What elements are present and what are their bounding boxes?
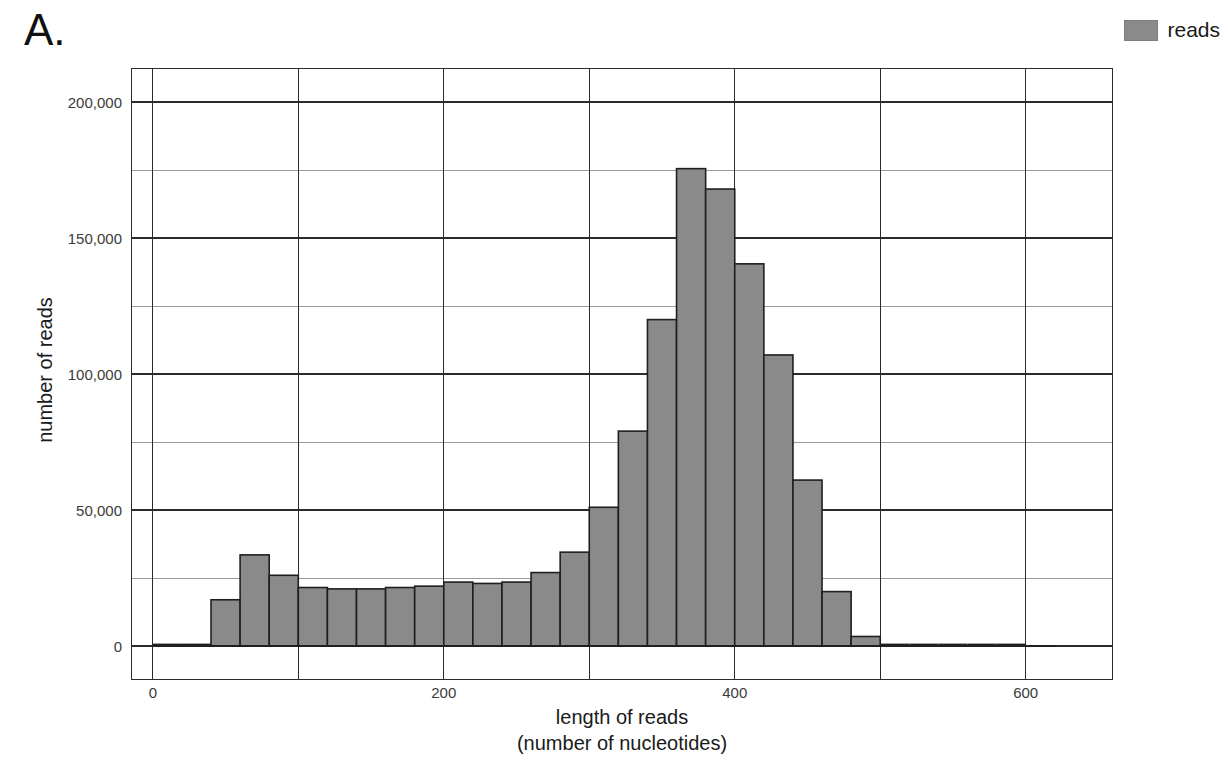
figure-panel-a: A. reads number of reads length of reads… <box>0 0 1228 782</box>
histogram-bar <box>793 480 822 646</box>
y-tick-label: 0 <box>114 638 122 655</box>
histogram-bar <box>269 575 298 646</box>
histogram-bar <box>444 582 473 646</box>
y-tick-label: 150,000 <box>68 230 122 247</box>
x-axis-title-line2: (number of nucleotides) <box>131 730 1113 756</box>
x-axis-title: length of reads (number of nucleotides) <box>131 704 1113 756</box>
histogram-bar <box>211 600 240 646</box>
histogram-bar <box>589 507 618 646</box>
y-tick-label: 200,000 <box>68 94 122 111</box>
x-tick-label: 200 <box>431 684 456 701</box>
histogram-bar <box>415 586 444 646</box>
histogram-bar <box>327 589 356 646</box>
x-axis-title-line1: length of reads <box>131 704 1113 730</box>
histogram-bar <box>647 320 676 646</box>
histogram-bar <box>473 583 502 646</box>
y-axis-title: number of reads <box>30 60 60 680</box>
histogram-bar <box>502 582 531 646</box>
x-tick-label: 600 <box>1013 684 1038 701</box>
legend-swatch-reads <box>1124 20 1158 41</box>
x-tick-label: 400 <box>722 684 747 701</box>
histogram-bar <box>356 589 385 646</box>
y-tick-label: 50,000 <box>76 502 122 519</box>
histogram-bar <box>240 555 269 646</box>
histogram-bar <box>298 588 327 646</box>
x-tick-label: 0 <box>149 684 157 701</box>
histogram-bar <box>706 189 735 646</box>
panel-letter: A. <box>24 8 66 52</box>
plot-area <box>131 68 1113 680</box>
legend-label-reads: reads <box>1167 18 1220 42</box>
histogram-bar <box>386 588 415 646</box>
chart-legend: reads <box>1124 18 1220 42</box>
histogram-bar <box>618 431 647 646</box>
histogram-bar <box>851 636 880 646</box>
y-tick-label: 100,000 <box>68 366 122 383</box>
histogram-bar <box>531 573 560 646</box>
histogram-bar <box>764 355 793 646</box>
histogram-bar <box>822 592 851 646</box>
histogram-svg <box>131 68 1113 680</box>
histogram-bar <box>560 552 589 646</box>
histogram-bar <box>677 169 706 646</box>
histogram-bar <box>735 264 764 646</box>
